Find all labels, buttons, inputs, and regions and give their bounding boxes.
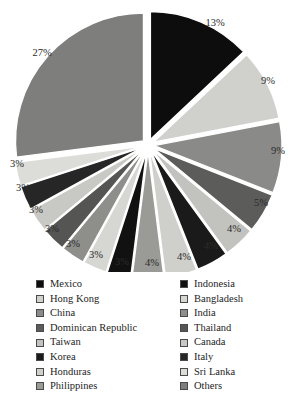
legend-color-swatch-icon bbox=[180, 382, 188, 390]
legend-color-swatch-icon bbox=[180, 368, 188, 376]
legend-color-swatch-icon bbox=[36, 309, 44, 317]
legend-color-swatch-icon bbox=[36, 280, 44, 288]
legend-item[interactable]: Dominican Republic bbox=[36, 321, 137, 336]
legend-item[interactable]: Sri Lanka bbox=[180, 365, 243, 380]
pie-slice-percentage-label: 3% bbox=[66, 238, 80, 249]
pie-slice-percentage-label: 9% bbox=[271, 145, 285, 156]
legend-item[interactable]: Bangladesh bbox=[180, 292, 243, 307]
legend-color-swatch-icon bbox=[36, 382, 44, 390]
legend-item-label: China bbox=[50, 308, 75, 319]
legend-item-label: Thailand bbox=[194, 323, 231, 334]
legend-item[interactable]: Indonesia bbox=[180, 277, 243, 292]
legend-color-swatch-icon bbox=[180, 339, 188, 347]
pie-slice-percentage-label: 4% bbox=[145, 257, 159, 268]
legend-color-swatch-icon bbox=[180, 280, 188, 288]
pie-slice-percentage-label: 4% bbox=[177, 251, 191, 262]
pie-chart-plot-area: 13%9%9%5%4%4%4%4%3%3%3%3%3%3%3%27% bbox=[0, 0, 297, 272]
pie-slice-percentage-label: 4% bbox=[204, 240, 218, 251]
legend-item[interactable]: Philippines bbox=[36, 379, 137, 394]
pie-slice-percentage-label: 3% bbox=[115, 256, 129, 267]
pie-slice-percentage-label: 9% bbox=[261, 75, 275, 86]
legend-item[interactable]: Taiwan bbox=[36, 335, 137, 350]
legend-item[interactable]: Canada bbox=[180, 335, 243, 350]
legend-color-swatch-icon bbox=[36, 295, 44, 303]
chart-legend: MexicoHong KongChinaDominican RepublicTa… bbox=[0, 274, 297, 403]
legend-item-label: Korea bbox=[50, 352, 76, 363]
pie-slice[interactable] bbox=[15, 13, 143, 157]
pie-slice-percentage-label: 5% bbox=[254, 197, 268, 208]
pie-slice-percentage-label: 3% bbox=[29, 204, 43, 215]
legend-item-label: Canada bbox=[194, 337, 226, 348]
legend-color-swatch-icon bbox=[36, 339, 44, 347]
legend-color-swatch-icon bbox=[180, 309, 188, 317]
legend-item-label: Hong Kong bbox=[50, 294, 99, 305]
legend-item[interactable]: Honduras bbox=[36, 365, 137, 380]
legend-item-label: Taiwan bbox=[50, 337, 81, 348]
legend-column-left: MexicoHong KongChinaDominican RepublicTa… bbox=[36, 277, 137, 394]
legend-item-label: India bbox=[194, 308, 216, 319]
legend-color-swatch-icon bbox=[180, 353, 188, 361]
legend-color-swatch-icon bbox=[180, 324, 188, 332]
pie-slice-percentage-label: 3% bbox=[89, 249, 103, 260]
legend-column-right: IndonesiaBangladeshIndiaThailandCanadaIt… bbox=[180, 277, 243, 394]
pie-slice-percentage-label: 27% bbox=[32, 47, 51, 58]
legend-item[interactable]: Mexico bbox=[36, 277, 137, 292]
legend-item[interactable]: Thailand bbox=[180, 321, 243, 336]
pie-slice-percentage-label: 3% bbox=[10, 158, 24, 169]
legend-item-label: Indonesia bbox=[194, 279, 235, 290]
legend-item[interactable]: Hong Kong bbox=[36, 292, 137, 307]
legend-item-label: Bangladesh bbox=[194, 294, 243, 305]
legend-item-label: Others bbox=[194, 381, 222, 392]
legend-item-label: Mexico bbox=[50, 279, 82, 290]
legend-item[interactable]: Korea bbox=[36, 350, 137, 365]
legend-item-label: Philippines bbox=[50, 381, 97, 392]
legend-item-label: Italy bbox=[194, 352, 213, 363]
legend-item[interactable]: Others bbox=[180, 379, 243, 394]
legend-color-swatch-icon bbox=[36, 324, 44, 332]
pie-slice-percentage-label: 3% bbox=[45, 223, 59, 234]
legend-item[interactable]: China bbox=[36, 306, 137, 321]
legend-item-label: Dominican Republic bbox=[50, 323, 137, 334]
pie-slice-percentage-label: 4% bbox=[227, 223, 241, 234]
legend-color-swatch-icon bbox=[36, 353, 44, 361]
legend-item-label: Sri Lanka bbox=[194, 367, 235, 378]
pie-slice-percentage-label: 13% bbox=[205, 17, 224, 28]
pie-slice-percentage-label: 3% bbox=[16, 182, 30, 193]
legend-color-swatch-icon bbox=[36, 368, 44, 376]
legend-item[interactable]: Italy bbox=[180, 350, 243, 365]
legend-color-swatch-icon bbox=[180, 295, 188, 303]
legend-item[interactable]: India bbox=[180, 306, 243, 321]
legend-item-label: Honduras bbox=[50, 367, 91, 378]
pie-chart-figure: 13%9%9%5%4%4%4%4%3%3%3%3%3%3%3%27% Mexic… bbox=[0, 0, 297, 403]
